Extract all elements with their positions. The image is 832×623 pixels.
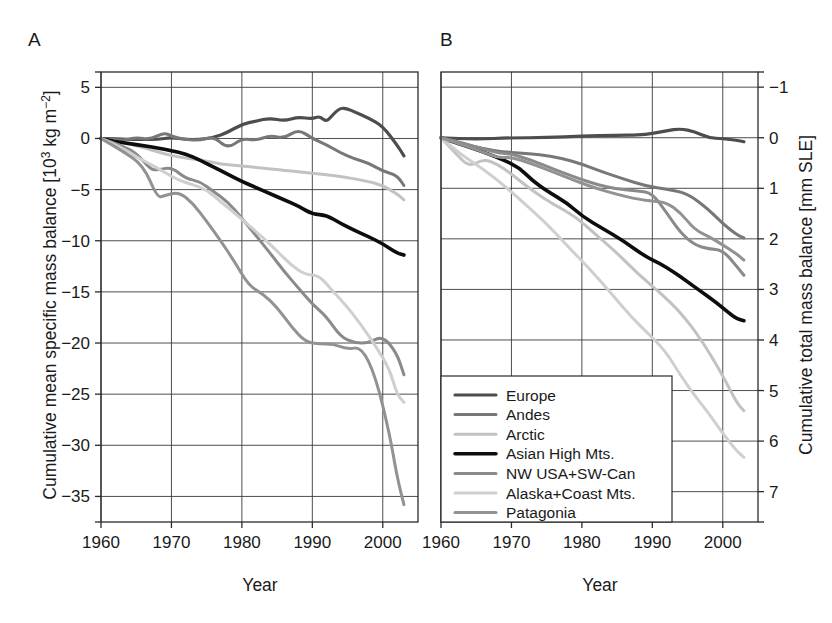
series-line-europe [441,129,744,142]
series-line-nw-usa-sw-can [441,138,744,276]
ytick-label: −15 [61,283,90,302]
ytick-label: 0 [769,129,778,148]
xtick-label: 1980 [223,533,261,552]
legend-label-patagonia: Patagonia [506,504,576,521]
panel-b-label: B [440,29,453,50]
ytick-label: 3 [769,280,778,299]
xtick-label: 2000 [364,533,402,552]
legend-label-europe: Europe [506,387,556,404]
panel-b-ylabel: Cumulative total mass balance [mm SLE] [796,135,816,455]
xtick-label: 1990 [633,533,671,552]
xtick-label: 1980 [563,533,601,552]
xtick-label: 1970 [493,533,531,552]
legend: EuropeAndesArcticAsian High Mts.NW USA+S… [441,376,672,522]
ytick-label: 2 [769,230,778,249]
series-line-alaska-coast-mts [101,138,404,402]
ytick-label: 0 [81,129,90,148]
xtick-label: 1960 [82,533,120,552]
legend-label-alaska-coast-mts: Alaska+Coast Mts. [506,485,636,502]
legend-label-asian-high-mts: Asian High Mts. [506,445,615,462]
xtick-label: 1990 [293,533,331,552]
legend-label-nw-usa-sw-can: NW USA+SW-Can [506,465,635,482]
ytick-label: 7 [769,483,778,502]
figure-container: A 1960197019801990200050−5−10−15−20−25−3… [0,0,832,623]
legend-label-andes: Andes [506,406,550,423]
ytick-label: 5 [769,382,778,401]
series-line-patagonia [441,138,744,260]
legend-label-arctic: Arctic [506,426,545,443]
ytick-label: 1 [769,179,778,198]
ytick-label: −10 [61,232,90,251]
panel-a-xlabel: Year [242,575,278,595]
ytick-label: −5 [71,181,90,200]
xtick-label: 2000 [704,533,742,552]
ytick-label: −25 [61,385,90,404]
ytick-label: −20 [61,334,90,353]
xtick-label: 1970 [153,533,191,552]
ytick-label: −35 [61,487,90,506]
panel-a-ylabel-sup2: −2 [39,95,53,109]
panel-a-ylabel-main: Cumulative mean specific mass balance [1… [40,158,60,500]
series-line-asian-high-mts [441,138,744,321]
panel-b-xlabel: Year [582,575,618,595]
series-line-andes [101,132,404,186]
ytick-label: 5 [81,78,90,97]
ytick-label: −30 [61,436,90,455]
xtick-label: 1960 [422,533,460,552]
panel-a-ylabel: Cumulative mean specific mass balance [1… [39,90,60,499]
ytick-label: 4 [769,331,778,350]
panel-a-label: A [28,29,41,50]
figure-svg: A 1960197019801990200050−5−10−15−20−25−3… [0,0,832,623]
series-line-asian-high-mts [101,138,404,255]
panel-a: A 1960197019801990200050−5−10−15−20−25−3… [28,29,418,595]
ytick-label: 6 [769,432,778,451]
ytick-label: −1 [769,78,788,97]
